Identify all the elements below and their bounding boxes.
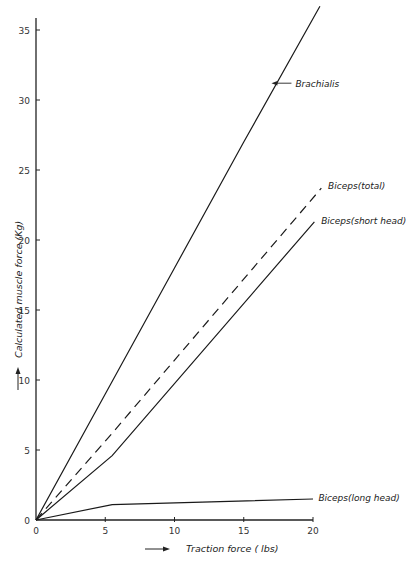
x-axis-title: Traction force ( lbs) — [186, 543, 278, 554]
series-line-biceps-total — [36, 188, 321, 520]
x-tick-label: 0 — [33, 526, 39, 536]
series-labels: BrachialisBiceps(total)Biceps(short head… — [271, 79, 406, 503]
x-axis-arrowhead-icon — [163, 547, 170, 552]
y-axis-title-group: Calculated muscle force (Kg) — [13, 221, 24, 390]
x-tick-label: 15 — [238, 526, 249, 536]
series-line-biceps-long-head — [36, 499, 313, 520]
y-tick-label: 35 — [19, 26, 30, 36]
series-label: Brachialis — [295, 79, 339, 89]
series-label: Biceps(short head) — [321, 216, 406, 226]
y-tick-label: 10 — [19, 376, 31, 386]
x-axis-title-group: Traction force ( lbs) — [145, 543, 278, 554]
y-axis-title: Calculated muscle force (Kg) — [13, 221, 24, 358]
series-label: Biceps(long head) — [318, 493, 399, 503]
y-tick-label: 5 — [24, 446, 30, 456]
label-arrowhead-icon — [271, 81, 277, 85]
y-tick-label: 25 — [19, 166, 30, 176]
x-tick-label: 10 — [169, 526, 181, 536]
series-label: Biceps(total) — [328, 181, 385, 191]
y-tick-label: 0 — [24, 516, 30, 526]
x-tick-label: 20 — [307, 526, 319, 536]
x-tick-label: 5 — [102, 526, 108, 536]
y-axis-arrowhead-icon — [16, 367, 21, 374]
y-tick-label: 30 — [19, 96, 31, 106]
chart: 0510152005101520253035 BrachialisBiceps(… — [0, 0, 412, 562]
ticks: 0510152005101520253035 — [19, 26, 319, 537]
